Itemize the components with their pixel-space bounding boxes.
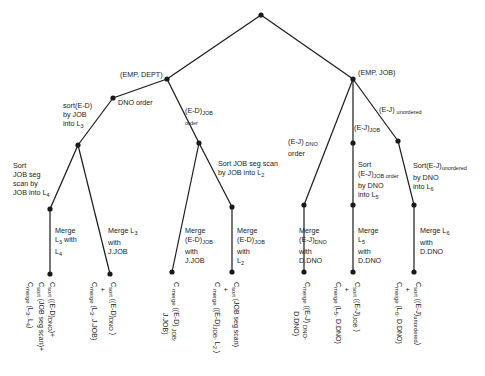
emp-job-label: (EMP, JOB) (358, 68, 395, 77)
merge-l5-ddno-label: Merge L5 with D.DNO (358, 226, 381, 265)
merge-l6-ddno-label: Merge L6 with D.DNO (420, 226, 449, 256)
ej-dno-order-label: (E-J) DNO order (288, 137, 318, 158)
emp-dept-label: (EMP, DEPT) (120, 70, 163, 79)
merge-l3-jjob-label: Merge L3 with J.JOB (108, 226, 137, 256)
sort-ejjob-l5-label: Sort (E-J)JOB order by DNO into L5 (358, 160, 399, 202)
ed-job-order-label: (E-D)JOB order (185, 106, 213, 128)
sort-ejunordered-l6-label: Sort(E-J)unordered by DNO into L6 (413, 161, 467, 194)
sort-ed-job-l3-label: sort(E-D) by JOB into L3 (63, 101, 92, 131)
emp-dept-node (164, 76, 169, 81)
ej-job-label: (E-J)JOB (354, 123, 380, 135)
sort-job-seg-l2-label: Sort JOB seg scan by JOB into L2 (218, 159, 278, 180)
merge-edjob-jjob-label: Merge (E-D)JOB with J.JOB (185, 226, 213, 265)
leaf-cost-5: Cmerge ((E-J) DNO, D.DNO) (292, 282, 311, 340)
merge-l3-l4-label: Merge L3 with L4 (55, 226, 77, 259)
leaf-cost-6: Csort ((E-J)JOB ) + Cmerge (L5, D.DNO) (331, 282, 361, 344)
ej-unordered-label: (E-J) unordered (379, 105, 422, 117)
merge-edjob-l2-label: Merge (E-D)JOB with L2 (237, 226, 265, 268)
emp-job-node (350, 76, 355, 81)
dno-order-label: DNO order (118, 98, 153, 107)
leaf-cost-7: Csort ((E-J)unordered) + Cmerge (L6, D.D… (392, 282, 422, 345)
leaf-cost-1: Csort ((E-D)DNO)+ Csort (JOB seg scan)+ … (23, 282, 56, 351)
root-node (258, 12, 263, 17)
leaf-cost-2: Csort ((E-D)DNO ) + Cmerge (L3, J.JOB) (87, 282, 117, 340)
merge-ejdno-ddno-label: Merge (E-J)DNO with D.DNO (299, 226, 327, 265)
leaf-cost-3: C merge ((E-D) JOB, J.JOB) (161, 282, 180, 342)
leaf-cost-4: Csort (JOB seg scan) + C merge ((E-D)JOB… (210, 282, 240, 353)
sort-job-seg-l4-label: Sort JOB seg scan by JOB into L4 (13, 161, 50, 200)
